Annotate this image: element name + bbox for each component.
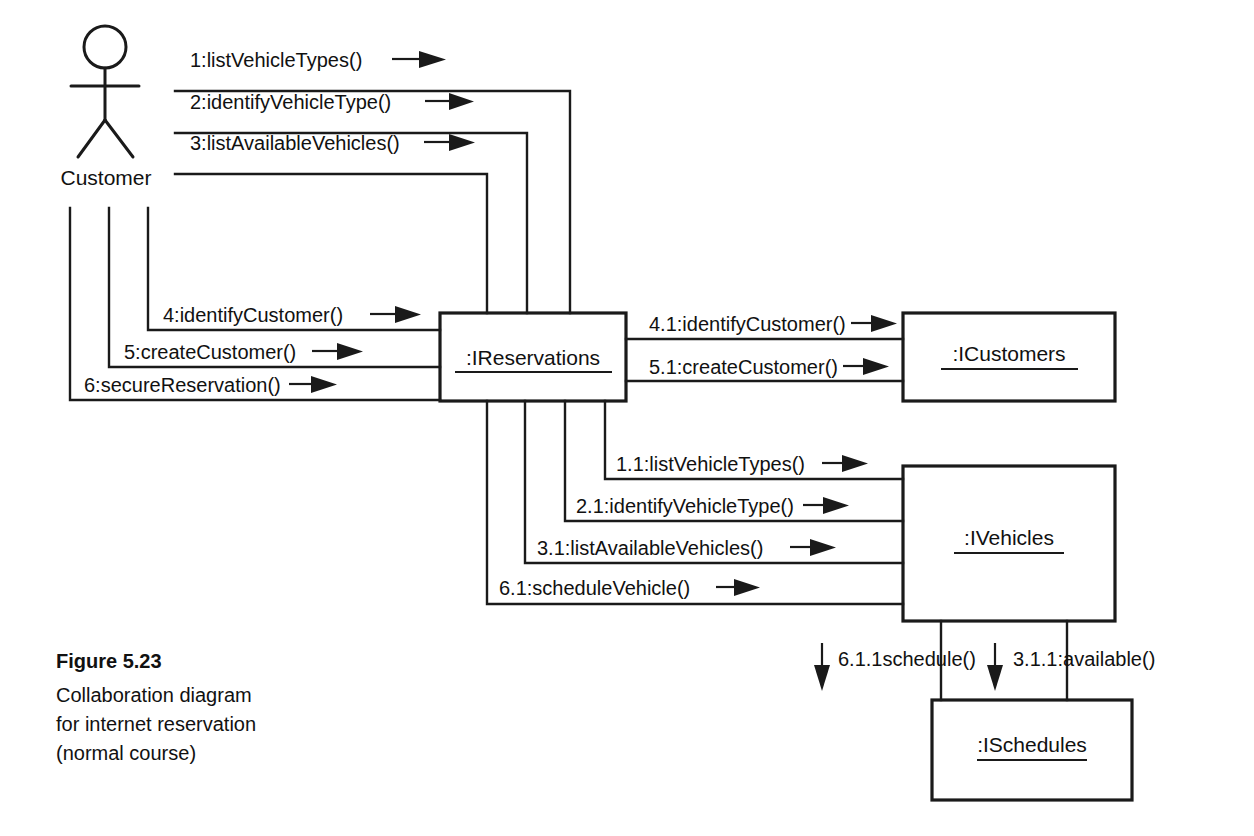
message-m5-arrow-icon [337,343,363,360]
message-m611-arrow-icon [814,665,830,691]
message-m51-label: 5.1:createCustomer() [649,356,838,378]
link-customer-reservations-2 [175,133,527,313]
message-m6-arrow-icon [311,376,337,393]
message-m4[interactable]: 4:identifyCustomer() [163,304,421,326]
actor-right-leg-icon [105,120,133,157]
message-m611[interactable]: 6.1.1schedule() [814,643,976,691]
figure-caption-line-3: (normal course) [56,742,196,764]
message-m31-arrow-icon [810,539,836,556]
message-m21[interactable]: 2.1:identifyVehicleType() [576,495,849,517]
actor-head-icon [84,26,126,68]
figure-caption-line-1: Collaboration diagram [56,684,252,706]
message-m51-arrow-icon [863,358,889,375]
collaboration-diagram: Customer :IReservations :ICustomers :IVe… [0,0,1254,836]
link-customer-reservations-1 [175,91,570,313]
message-m41-label: 4.1:identifyCustomer() [649,313,846,335]
message-m31[interactable]: 3.1:listAvailableVehicles() [537,537,836,559]
link-customer-reservations-3 [175,174,487,313]
message-m11-label: 1.1:listVehicleTypes() [616,453,805,475]
message-m31-label: 3.1:listAvailableVehicles() [537,537,763,559]
message-m1-arrow-icon [419,51,446,68]
link-path-m1 [175,91,570,313]
message-m5-label: 5:createCustomer() [124,341,296,363]
message-m11-arrow-icon [842,455,868,472]
message-m21-arrow-icon [823,497,849,514]
object-customers[interactable]: :ICustomers [903,313,1115,401]
link-path-m2 [175,133,527,313]
figure-caption-line-2: for internet reservation [56,713,256,735]
message-m311-label: 3.1.1:available() [1013,648,1155,670]
message-m41[interactable]: 4.1:identifyCustomer() [649,313,897,335]
message-m11[interactable]: 1.1:listVehicleTypes() [616,453,868,475]
object-schedules-label: :ISchedules [977,733,1087,756]
actor-label: Customer [60,166,151,189]
message-m41-arrow-icon [871,315,897,332]
object-vehicles[interactable]: :IVehicles [903,466,1115,621]
message-m4-arrow-icon [395,306,421,323]
object-vehicles-label: :IVehicles [964,526,1054,549]
message-m2-arrow-icon [449,93,474,110]
message-m5[interactable]: 5:createCustomer() [124,341,363,363]
message-m311-arrow-icon [987,665,1003,691]
message-m4-label: 4:identifyCustomer() [163,304,343,326]
message-m61-arrow-icon [734,579,760,596]
message-m611-label: 6.1.1schedule() [838,648,976,670]
message-m1-label: 1:listVehicleTypes() [190,49,362,71]
diagram-canvas: Customer :IReservations :ICustomers :IVe… [0,0,1254,836]
message-m2[interactable]: 2:identifyVehicleType() [190,91,474,113]
message-m51[interactable]: 5.1:createCustomer() [649,356,889,378]
message-m61-label: 6.1:scheduleVehicle() [499,577,690,599]
message-m3[interactable]: 3:listAvailableVehicles() [190,132,475,154]
actor-left-leg-icon [78,120,105,157]
message-m3-label: 3:listAvailableVehicles() [190,132,400,154]
link-path-m3 [175,174,487,313]
message-m2-label: 2:identifyVehicleType() [190,91,391,113]
message-m6-label: 6:secureReservation() [84,374,281,396]
object-schedules[interactable]: :ISchedules [932,700,1132,800]
message-m1[interactable]: 1:listVehicleTypes() [190,49,446,71]
message-m311[interactable]: 3.1.1:available() [987,643,1155,691]
figure-number: Figure 5.23 [56,650,162,672]
object-customers-label: :ICustomers [952,342,1065,365]
object-reservations-label: :IReservations [466,346,600,369]
actor-customer[interactable]: Customer [60,26,151,189]
message-m61[interactable]: 6.1:scheduleVehicle() [499,577,760,599]
message-m6[interactable]: 6:secureReservation() [84,374,337,396]
object-reservations[interactable]: :IReservations [440,313,626,401]
message-m3-arrow-icon [449,134,475,151]
message-m21-label: 2.1:identifyVehicleType() [576,495,794,517]
figure-caption: Figure 5.23 Collaboration diagram for in… [56,650,256,764]
